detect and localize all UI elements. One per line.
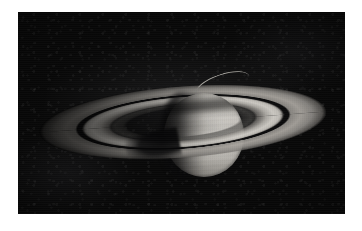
sky-background — [18, 12, 345, 214]
zonal-banding — [164, 93, 244, 177]
saturn-system — [18, 12, 345, 214]
saturn-globe — [164, 93, 244, 177]
saturn-photograph — [0, 0, 362, 231]
ring-shadow-on-globe — [164, 93, 244, 118]
cloud-belts — [164, 93, 244, 177]
